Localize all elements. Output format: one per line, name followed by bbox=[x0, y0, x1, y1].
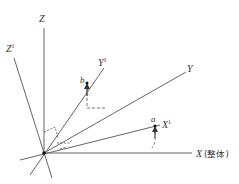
y-axis bbox=[44, 72, 186, 153]
x-axis-label: X(整体) bbox=[195, 148, 229, 159]
point-a bbox=[154, 125, 157, 128]
z1-axis bbox=[14, 58, 52, 178]
point-b bbox=[86, 82, 89, 85]
x1-axis-label: X1 bbox=[161, 119, 171, 130]
point-a-label: a bbox=[151, 114, 156, 124]
z-axis-label: Z bbox=[39, 13, 45, 24]
b-projection-dashed bbox=[87, 83, 107, 108]
y1-axis-label: Y1 bbox=[98, 57, 107, 68]
y-axis-label: Y bbox=[187, 63, 194, 74]
z1-axis-label: Z1 bbox=[6, 43, 15, 54]
rotation-mark-z bbox=[44, 127, 58, 138]
coordinate-diagram: Z Z1 Y1 Y X1 X(整体) b a bbox=[0, 0, 239, 184]
axes-svg: Z Z1 Y1 Y X1 X(整体) b a bbox=[0, 0, 239, 184]
point-b-label: b bbox=[80, 75, 85, 85]
y1-axis bbox=[30, 68, 104, 175]
origin-point bbox=[42, 151, 46, 155]
